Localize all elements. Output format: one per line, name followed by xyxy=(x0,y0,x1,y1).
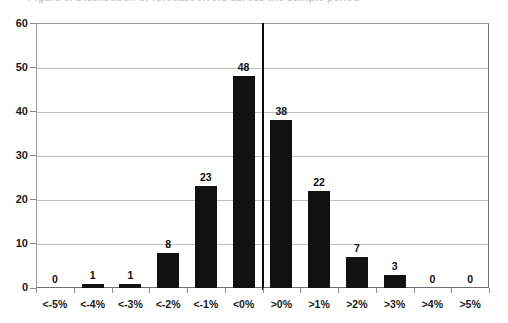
bar-value-label: 23 xyxy=(200,171,212,183)
x-axis-tick xyxy=(338,288,339,293)
bar-group: 0 xyxy=(451,23,489,288)
bar-group: 38 xyxy=(263,23,301,288)
x-axis-tick xyxy=(225,288,226,293)
bar xyxy=(346,257,368,288)
bar xyxy=(195,186,217,288)
x-axis-tick xyxy=(149,288,150,293)
bar-value-label: 0 xyxy=(52,273,58,285)
y-axis-label-40: 40 xyxy=(0,105,28,117)
bar-group: 1 xyxy=(74,23,112,288)
x-axis-tick xyxy=(74,288,75,293)
x-axis-tick xyxy=(187,288,188,293)
x-axis-tick xyxy=(414,288,415,293)
bar-value-label: 22 xyxy=(313,176,325,188)
x-axis-tick xyxy=(489,288,490,293)
bar-group: 1 xyxy=(112,23,150,288)
x-axis-tick xyxy=(36,288,37,293)
bar xyxy=(308,191,330,288)
bar-group: 48 xyxy=(225,23,263,288)
bar-group: 22 xyxy=(300,23,338,288)
bar xyxy=(82,284,104,288)
bar-value-label: 1 xyxy=(90,269,96,281)
bar-group: 0 xyxy=(414,23,452,288)
bar xyxy=(157,253,179,288)
bar xyxy=(233,76,255,288)
bar-value-label: 38 xyxy=(276,105,288,117)
y-axis-label-60: 60 xyxy=(0,17,28,29)
x-axis-tick xyxy=(263,288,264,293)
y-axis-label-20: 20 xyxy=(0,193,28,205)
bar-value-label: 3 xyxy=(392,260,398,272)
y-axis-label-0: 0 xyxy=(0,281,28,293)
histogram-chart: 60 50 40 30 20 10 0 0118234838227300 <-5… xyxy=(0,0,508,323)
bar-value-label: 7 xyxy=(354,242,360,254)
y-axis-label-50: 50 xyxy=(0,61,28,73)
bar-value-label: 1 xyxy=(127,269,133,281)
bar-value-label: 8 xyxy=(165,238,171,250)
bar-group: 23 xyxy=(187,23,225,288)
bar-value-label: 48 xyxy=(238,61,250,73)
y-axis-label-30: 30 xyxy=(0,149,28,161)
x-axis-label: >5% xyxy=(448,298,492,310)
bar-group: 7 xyxy=(338,23,376,288)
x-axis-tick xyxy=(300,288,301,293)
bar xyxy=(384,275,406,288)
zero-divider-line xyxy=(262,23,264,290)
bar-value-label: 0 xyxy=(467,273,473,285)
bar xyxy=(270,120,292,288)
bar xyxy=(119,284,141,288)
y-axis-label-10: 10 xyxy=(0,237,28,249)
chart-page: Figure 3. Distribution of forecast error… xyxy=(0,0,508,323)
bar-group: 8 xyxy=(149,23,187,288)
bar-value-label: 0 xyxy=(429,273,435,285)
x-axis-tick xyxy=(112,288,113,293)
x-axis-tick xyxy=(376,288,377,293)
bar-group: 0 xyxy=(36,23,74,288)
bar-group: 3 xyxy=(376,23,414,288)
x-axis-tick xyxy=(451,288,452,293)
